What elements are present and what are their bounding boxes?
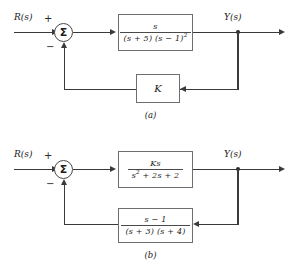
output-label-a: Y(s) <box>224 12 242 22</box>
minus-sign-a: − <box>46 41 54 52</box>
forward-block-b: Ks s2 + 2s + 2 <box>118 151 193 188</box>
feedback-arrowhead-a <box>180 86 186 92</box>
feedback-up-wire-b <box>64 181 65 224</box>
forward-denominator-rest-b: + 2s + 2 <box>142 171 179 180</box>
sigma-symbol-a: Σ <box>60 27 68 38</box>
output-arrowhead-b <box>279 166 285 172</box>
forward-denominator-exponent-b: 2 <box>136 169 140 175</box>
gain-label-a: K <box>154 83 161 94</box>
forward-transfer-function-b: Ks s2 + 2s + 2 <box>128 159 184 180</box>
error-arrowhead-a <box>110 29 116 35</box>
output-label-b: Y(s) <box>224 149 242 159</box>
input-wire-b <box>14 169 54 170</box>
error-arrowhead-b <box>110 166 116 172</box>
feedback-block-b: s − 1 (s + 3) (s + 4) <box>118 208 193 243</box>
forward-denominator-exponent-a: 2 <box>184 32 188 38</box>
forward-numerator-b: Ks <box>146 159 164 169</box>
forward-block-a: s (s + 5) (s − 1)2 <box>118 14 193 51</box>
feedback-left-segment-b <box>64 224 118 225</box>
forward-denominator-term-1-a: (s + 5) <box>124 34 153 43</box>
summing-junction-a: Σ <box>54 23 73 42</box>
forward-numerator-a: s <box>149 22 161 32</box>
input-label-b: R(s) <box>14 149 32 159</box>
feedback-left-segment-a <box>64 89 136 90</box>
plus-sign-a: + <box>44 13 52 24</box>
feedback-up-wire-a <box>64 44 65 89</box>
feedback-gain-block-a: K <box>136 74 180 103</box>
feedback-denominator-term-2-b: (s + 4) <box>157 227 186 236</box>
figure-root: Σ s (s + 5) (s − 1)2 K R(s) Y(s) + <box>0 0 301 276</box>
forward-denominator-a: (s + 5) (s − 1)2 <box>120 32 192 43</box>
feedback-down-wire-a <box>237 32 238 90</box>
feedback-denominator-term-1-b: (s + 3) <box>125 227 154 236</box>
input-label-a: R(s) <box>14 12 32 22</box>
feedback-into-summer-arrowhead-a <box>61 42 67 48</box>
forward-denominator-term-2-a: (s − 1) <box>155 34 184 43</box>
input-wire-a <box>14 32 54 33</box>
feedback-arrowhead-b <box>193 221 199 227</box>
forward-transfer-function-a: s (s + 5) (s − 1)2 <box>120 22 192 43</box>
feedback-down-wire-b <box>237 169 238 225</box>
feedback-transfer-function-b: s − 1 (s + 3) (s + 4) <box>121 215 189 236</box>
error-wire-a <box>73 32 111 33</box>
summing-junction-b: Σ <box>54 160 73 179</box>
caption-a: (a) <box>0 110 301 120</box>
minus-sign-b: − <box>46 178 54 189</box>
plus-sign-b: + <box>44 150 52 161</box>
error-wire-b <box>73 169 111 170</box>
output-arrowhead-a <box>279 29 285 35</box>
sigma-symbol-b: Σ <box>60 164 68 175</box>
feedback-numerator-b: s − 1 <box>141 215 171 225</box>
feedback-into-summer-arrowhead-b <box>61 179 67 185</box>
forward-denominator-b: s2 + 2s + 2 <box>128 169 184 180</box>
feedback-denominator-b: (s + 3) (s + 4) <box>121 225 189 236</box>
feedback-right-segment-b <box>199 224 238 225</box>
caption-b: (b) <box>0 250 301 260</box>
feedback-right-segment-a <box>180 89 238 90</box>
